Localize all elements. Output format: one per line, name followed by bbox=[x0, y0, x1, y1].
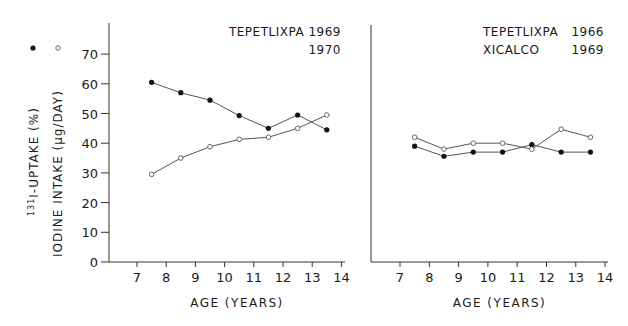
open-circle-marker-icon bbox=[295, 126, 300, 131]
x-tick-label: 9 bbox=[191, 270, 199, 285]
panel-tepetlixpa-1966-xicalco-1969: 7891011121314AGE (YEARS)TEPETLIXPA1966XI… bbox=[371, 25, 613, 310]
x-tick-label: 8 bbox=[425, 270, 433, 285]
open-circle-marker-icon bbox=[530, 147, 535, 152]
open-circle-marker-icon bbox=[442, 147, 447, 152]
open-circle-marker-icon bbox=[325, 113, 330, 118]
panel-title-year: 1966 bbox=[571, 25, 604, 39]
y-tick-label: 20 bbox=[81, 196, 98, 211]
filled-circle-marker-icon bbox=[266, 126, 271, 131]
filled-circle-marker-icon bbox=[178, 90, 183, 95]
filled-circle-marker-icon bbox=[324, 127, 329, 132]
y-axis-label-intake: IODINE INTAKE (µg/DAY) bbox=[51, 90, 65, 257]
y-tick-label: 50 bbox=[81, 107, 98, 122]
y-tick-label: 40 bbox=[81, 136, 98, 151]
x-tick-label: 12 bbox=[275, 270, 292, 285]
x-tick-label: 8 bbox=[162, 270, 170, 285]
x-tick-label: 9 bbox=[454, 270, 462, 285]
x-axis-label: AGE (YEARS) bbox=[453, 296, 547, 310]
x-tick-label: 14 bbox=[333, 270, 350, 285]
open-circle-marker-icon bbox=[208, 144, 213, 149]
panel-title-line: 1970 bbox=[308, 43, 341, 57]
legend-open-circle-icon bbox=[56, 46, 60, 50]
series-line bbox=[415, 129, 591, 149]
series-line bbox=[152, 82, 327, 130]
filled-circle-marker-icon bbox=[149, 80, 154, 85]
filled-circle-marker-icon bbox=[412, 144, 417, 149]
x-axis-label: AGE (YEARS) bbox=[190, 296, 284, 310]
y-axis-labels: 131I-UPTAKE (%)IODINE INTAKE (µg/DAY) bbox=[27, 45, 65, 257]
y-axis-label-uptake: 131I-UPTAKE (%) bbox=[27, 107, 41, 216]
open-circle-marker-icon bbox=[149, 172, 154, 177]
open-circle-marker-icon bbox=[237, 137, 242, 142]
open-circle-marker-icon bbox=[500, 141, 505, 146]
panel-title-line: TEPETLIXPA 1969 bbox=[228, 25, 341, 39]
open-circle-marker-icon bbox=[266, 135, 271, 140]
y-tick-label: 30 bbox=[81, 166, 98, 181]
legend-filled-circle-icon bbox=[30, 45, 35, 50]
x-tick-label: 11 bbox=[509, 270, 526, 285]
x-tick-label: 13 bbox=[568, 270, 585, 285]
open-circle-marker-icon bbox=[179, 156, 184, 161]
y-tick-label: 0 bbox=[90, 255, 98, 270]
filled-circle-marker-icon bbox=[441, 154, 446, 159]
filled-circle-marker-icon bbox=[471, 150, 476, 155]
panel-title-line: TEPETLIXPA bbox=[482, 25, 558, 39]
x-tick-label: 13 bbox=[304, 270, 321, 285]
open-circle-marker-icon bbox=[559, 127, 564, 132]
x-tick-label: 7 bbox=[396, 270, 404, 285]
filled-circle-marker-icon bbox=[588, 150, 593, 155]
series-line bbox=[152, 115, 327, 174]
x-tick-label: 11 bbox=[246, 270, 263, 285]
x-tick-label: 10 bbox=[480, 270, 497, 285]
filled-circle-marker-icon bbox=[207, 98, 212, 103]
filled-circle-marker-icon bbox=[295, 112, 300, 117]
panel-title-line: XICALCO bbox=[483, 43, 539, 57]
filled-circle-marker-icon bbox=[237, 113, 242, 118]
y-tick-label: 70 bbox=[81, 47, 98, 62]
open-circle-marker-icon bbox=[412, 135, 417, 140]
x-tick-label: 12 bbox=[538, 270, 555, 285]
y-tick-label: 60 bbox=[81, 77, 98, 92]
y-tick-label: 10 bbox=[81, 225, 98, 240]
panel-tepetlixpa-1969-1970: 0102030405060707891011121314AGE (YEARS)T… bbox=[81, 23, 349, 310]
panel-title-year: 1969 bbox=[571, 43, 604, 57]
x-tick-label: 7 bbox=[133, 270, 141, 285]
x-tick-label: 14 bbox=[597, 270, 614, 285]
filled-circle-marker-icon bbox=[500, 150, 505, 155]
open-circle-marker-icon bbox=[471, 141, 476, 146]
iodine-uptake-chart: 131I-UPTAKE (%)IODINE INTAKE (µg/DAY) 01… bbox=[0, 0, 628, 326]
x-tick-label: 10 bbox=[216, 270, 233, 285]
open-circle-marker-icon bbox=[588, 135, 593, 140]
filled-circle-marker-icon bbox=[559, 150, 564, 155]
